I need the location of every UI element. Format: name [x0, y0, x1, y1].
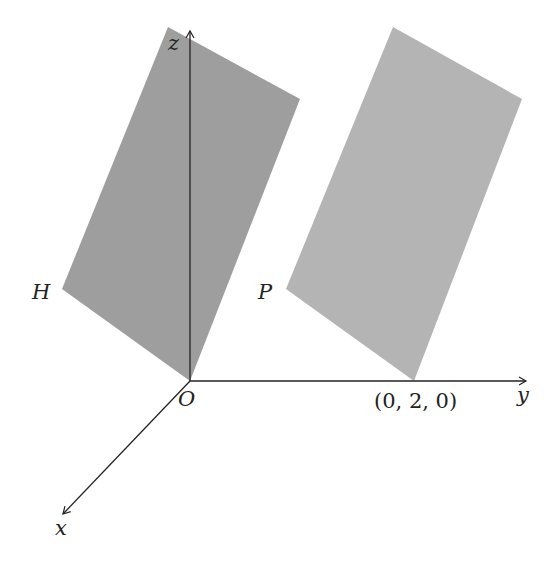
coordinate-diagram: z y x O (0, 2, 0) H P: [0, 0, 558, 567]
plane-h-label: H: [31, 280, 51, 304]
x-axis: [63, 381, 190, 514]
z-axis-label: z: [167, 31, 180, 55]
plane-h: [62, 27, 300, 381]
x-axis-label: x: [55, 516, 67, 540]
plane-p-label: P: [257, 280, 273, 304]
origin-label: O: [178, 387, 195, 411]
point-label: (0, 2, 0): [374, 389, 457, 413]
y-axis-label: y: [516, 383, 530, 407]
plane-p: [286, 27, 522, 381]
